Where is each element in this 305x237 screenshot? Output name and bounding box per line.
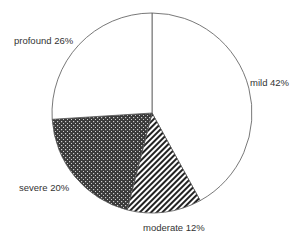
label-severe: severe 20% [19,183,69,193]
pie-slices [52,13,252,213]
label-mild: mild 42% [250,78,289,88]
label-profound: profound 26% [14,36,73,46]
slice-profound [52,13,152,119]
label-moderate: moderate 12% [143,223,205,233]
